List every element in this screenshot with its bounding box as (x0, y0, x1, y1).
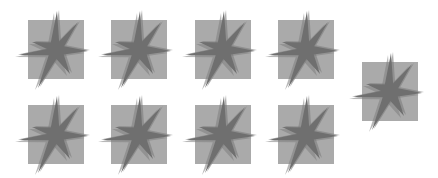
seven-point-star-icon (334, 32, 438, 151)
tile-row1-col4 (278, 20, 334, 79)
tile-row2-col4 (278, 105, 334, 164)
tile-row1-col3 (195, 20, 251, 79)
tile-row2-col3 (195, 105, 251, 164)
tile-row2-col1 (28, 105, 84, 164)
tile-right (362, 62, 418, 121)
tile-row1-col1 (28, 20, 84, 79)
tile-row2-col2 (111, 105, 167, 164)
tile-row1-col2 (111, 20, 167, 79)
